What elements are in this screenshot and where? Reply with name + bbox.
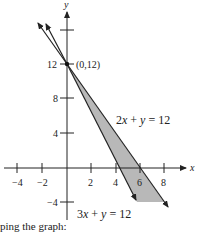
y-tick-label: −4 [47,197,58,208]
equation-label-2x-plus-y: 2x + y = 12 [116,113,170,127]
x-tick-label: −4 [12,177,23,188]
x-tick-label: 6 [137,177,142,188]
y-tick-label: 8 [53,93,58,104]
intersection-point [65,62,69,66]
y-tick-label: 12 [47,59,57,70]
x-tick-label: 4 [113,177,118,188]
x-tick-label: 2 [88,177,93,188]
graph-canvas: y x −4 −2 2 4 6 8 12 8 4 −4 (0,12) 2x + … [0,0,197,233]
y-axis-label: y [63,0,69,10]
point-label: (0,12) [76,59,100,71]
line-2x-plus-y-eq-12-upper [38,23,67,64]
line-3x-plus-y-eq-12 [67,64,136,200]
x-tick-label: 8 [161,177,166,188]
x-tick-label: −2 [37,177,48,188]
equation-label-3x-plus-y: 3x + y = 12 [77,207,131,221]
caption-text: ping the graph: [0,220,67,232]
y-tick-label: 4 [53,128,58,139]
x-axis-label: x [189,162,195,173]
